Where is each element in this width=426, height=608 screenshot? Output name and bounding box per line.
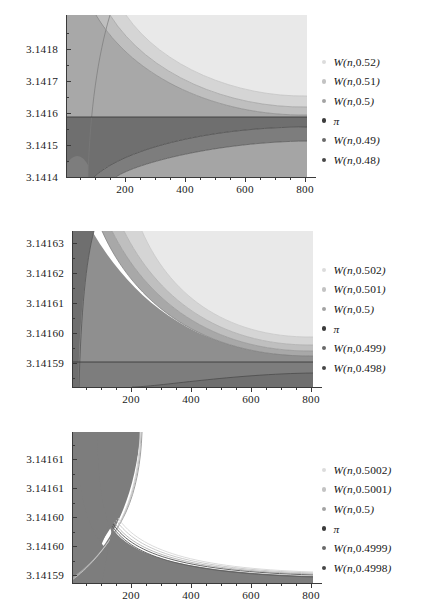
x-axis-3 <box>72 583 322 584</box>
x-tick-label: 600 <box>236 183 253 195</box>
contour-bands-3 <box>72 432 313 583</box>
legend-item[interactable]: W(n,0.48) <box>322 150 380 170</box>
y-tick-label: 3.14159 <box>0 569 64 581</box>
legend-swatch-icon <box>322 307 326 311</box>
legend-item-label: W(n,0.5001) <box>333 483 391 495</box>
y-tick-label: 3.1415 <box>0 139 58 151</box>
legend-swatch-icon <box>322 158 326 162</box>
plot-canvas-1 <box>66 15 307 177</box>
y-tick-label: 3.14162 <box>0 267 64 279</box>
legend-item-label: π <box>333 323 339 335</box>
legend-item-label: W(n,0.4998) <box>333 562 391 574</box>
legend-item[interactable]: W(n,0.499) <box>322 338 386 358</box>
legend-item[interactable]: W(n,0.5001) <box>322 480 391 500</box>
legend-item-label: W(n,0.5) <box>333 303 374 315</box>
legend-item-label: W(n,0.5002) <box>333 464 391 476</box>
legend-swatch-icon <box>322 79 326 83</box>
x-tick-label: 400 <box>182 393 199 405</box>
legend-item-label: W(n,0.499) <box>333 342 385 354</box>
y-tick-label: 3.14159 <box>0 357 64 369</box>
y-tick-label: 3.1416 <box>0 107 58 119</box>
plot-area-1[interactable] <box>66 15 307 177</box>
legend-item[interactable]: W(n,0.5) <box>322 499 391 519</box>
legend-item-label: W(n,0.501) <box>333 283 385 295</box>
y-tick-label: 3.14160 <box>0 511 64 523</box>
x-tick-label: 400 <box>176 183 193 195</box>
legend-item[interactable]: W(n,0.5002) <box>322 460 391 480</box>
legend-swatch-icon <box>322 507 326 511</box>
legend-2: W(n,0.502) W(n,0.501) W(n,0.5) π W(n,0.4… <box>322 260 386 378</box>
x-tick-label: 800 <box>296 183 313 195</box>
y-tick-label: 3.14161 <box>0 453 64 465</box>
legend-item[interactable]: W(n,0.5) <box>322 299 386 319</box>
legend-item-label: W(n,0.5) <box>333 503 374 515</box>
legend-item-label: W(n,0.4999) <box>333 542 391 554</box>
legend-item[interactable]: W(n,0.51) <box>322 72 380 92</box>
chart-panel-3: 3.14159 3.14160 3.14160 3.14161 3.14161 … <box>0 408 426 608</box>
plot-area-3[interactable] <box>72 432 313 583</box>
legend-swatch-icon <box>322 546 326 550</box>
y-tick-label: 3.1418 <box>0 43 58 55</box>
legend-swatch-icon <box>322 99 326 103</box>
legend-item[interactable]: W(n,0.4998) <box>322 558 391 578</box>
y-tick-label: 3.14161 <box>0 482 64 494</box>
legend-item[interactable]: W(n,0.501) <box>322 280 386 300</box>
legend-item[interactable]: π <box>322 111 380 131</box>
legend-item-label: W(n,0.5) <box>333 95 374 107</box>
plot-area-2[interactable] <box>72 231 313 387</box>
x-tick-label: 600 <box>242 393 259 405</box>
legend-item-label: W(n,0.48) <box>333 154 379 166</box>
y-tick-label: 3.14163 <box>0 237 64 249</box>
plot-canvas-3 <box>72 432 313 583</box>
legend-swatch-icon <box>322 366 326 370</box>
legend-swatch-icon <box>322 346 326 350</box>
chart-panel-2: 3.14159 3.14160 3.14161 3.14162 3.14163 … <box>0 200 426 408</box>
y-tick-label: 3.14160 <box>0 327 64 339</box>
legend-item-label: W(n,0.502) <box>333 264 385 276</box>
legend-swatch-icon <box>322 118 326 122</box>
y-tick-label: 3.1414 <box>0 171 58 183</box>
contour-bands-1 <box>66 15 307 177</box>
legend-swatch-icon <box>322 60 326 64</box>
legend-swatch-icon <box>322 287 326 291</box>
legend-3: W(n,0.5002) W(n,0.5001) W(n,0.5) π W(n,0… <box>322 460 391 578</box>
legend-item[interactable]: W(n,0.49) <box>322 130 380 150</box>
x-tick-label: 200 <box>122 589 139 601</box>
legend-item-label: W(n,0.52) <box>333 56 379 68</box>
legend-swatch-icon <box>322 326 326 330</box>
legend-swatch-icon <box>322 268 326 272</box>
legend-item[interactable]: W(n,0.52) <box>322 52 380 72</box>
legend-swatch-icon <box>322 138 326 142</box>
x-axis-1 <box>66 177 316 178</box>
legend-item[interactable]: π <box>322 319 386 339</box>
x-tick-label: 200 <box>116 183 133 195</box>
legend-item[interactable]: π <box>322 519 391 539</box>
x-tick-label: 800 <box>302 589 319 601</box>
legend-1: W(n,0.52) W(n,0.51) W(n,0.5) π W(n,0.49)… <box>322 52 380 170</box>
y-axis-2 <box>72 231 73 388</box>
chart-panel-1: 3.1414 3.1415 3.1416 3.1417 3.1418 200 4… <box>0 0 426 200</box>
legend-item-label: W(n,0.498) <box>333 362 385 374</box>
legend-item-label: π <box>333 523 339 535</box>
plot-canvas-2 <box>72 231 313 387</box>
x-tick-label: 200 <box>122 393 139 405</box>
legend-item[interactable]: W(n,0.498) <box>322 358 386 378</box>
legend-item-label: W(n,0.51) <box>333 75 379 87</box>
legend-swatch-icon <box>322 468 326 472</box>
y-tick-label: 3.14161 <box>0 297 64 309</box>
y-tick-label: 3.14160 <box>0 540 64 552</box>
x-tick-label: 600 <box>242 589 259 601</box>
legend-item[interactable]: W(n,0.502) <box>322 260 386 280</box>
legend-item-label: π <box>333 115 339 127</box>
legend-swatch-icon <box>322 526 326 530</box>
legend-item[interactable]: W(n,0.5) <box>322 91 380 111</box>
x-tick-label: 400 <box>182 589 199 601</box>
legend-item[interactable]: W(n,0.4999) <box>322 538 391 558</box>
legend-swatch-icon <box>322 487 326 491</box>
legend-swatch-icon <box>322 566 326 570</box>
x-tick-label: 800 <box>302 393 319 405</box>
y-tick-label: 3.1417 <box>0 75 58 87</box>
x-axis-2 <box>72 387 322 388</box>
legend-item-label: W(n,0.49) <box>333 134 379 146</box>
contour-bands-2 <box>72 231 313 387</box>
